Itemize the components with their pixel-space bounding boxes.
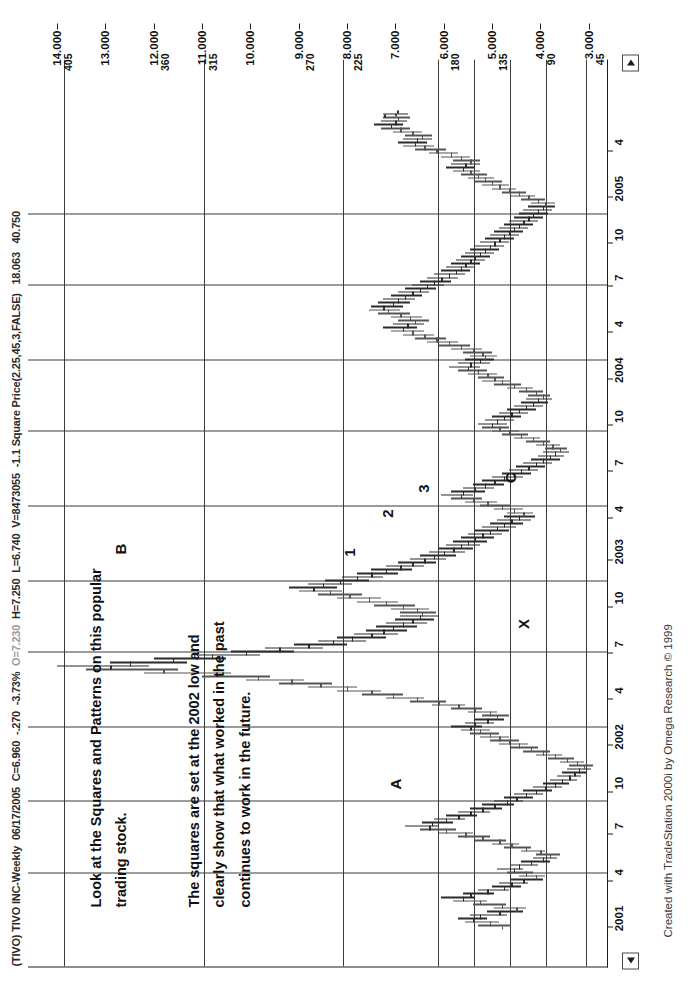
ohlc-bar [265,647,323,649]
ohlc-bar [494,800,523,802]
square-vertical-line-5 [28,505,607,506]
ohlc-open-tick [504,887,505,890]
ohlc-open-tick [461,157,462,160]
ohlc-open-tick [461,267,462,270]
ohlc-bar [398,319,429,321]
ohlc-open-tick [412,620,413,623]
ohlc-open-tick [461,495,462,498]
ohlc-open-tick [388,310,389,313]
ohlc-open-tick [422,613,423,616]
ohlc-open-tick [403,606,404,609]
ohlc-open-tick [521,435,522,438]
ohlc-open-tick [391,125,392,128]
ohlc-bar [439,344,470,346]
ohlc-open-tick [412,292,413,295]
ohlc-open-tick [333,641,334,644]
ohlc-open-tick [446,830,447,833]
ohlc-bar [405,825,439,827]
point-label-2: 2 [378,509,395,517]
ohlc-bar [386,622,427,624]
square-axis-label: 45 [594,53,606,65]
ohlc-bar [374,123,403,125]
ohlc-bar [494,508,523,510]
ohlc-bar [536,444,560,446]
ohlc-bar [482,803,513,805]
ohlc-open-tick [502,506,503,509]
ohlc-open-tick [434,556,435,559]
ohlc-open-tick [400,566,401,569]
ohlc-bar [434,818,465,820]
ohlc-open-tick [383,307,384,310]
ohlc-open-tick [465,164,466,167]
scroll-right-button[interactable] [622,54,639,71]
ohlc-bar [468,711,497,713]
ohlc-open-tick [371,691,372,694]
ohlc-open-tick [555,784,556,787]
ohlc-bar [386,697,425,699]
date-axis-label: 2001 [613,905,625,931]
ohlc-bar [465,501,496,503]
ohlc-open-tick [478,175,479,178]
ohlc-open-tick [412,132,413,135]
ohlc-bar [458,362,489,364]
ohlc-open-tick [526,873,527,876]
ohlc-bar [362,693,403,695]
ohlc-bar [511,747,538,749]
ohlc-open-tick [584,766,585,769]
title-open: O=7.230 [10,624,22,665]
ohlc-open-tick [347,687,348,690]
price-axis-label: 10.000 [244,30,256,65]
ohlc-open-tick [519,225,520,228]
ohlc-bar [507,512,534,514]
ohlc-open-tick [458,816,459,819]
ohlc-open-tick [475,709,476,712]
date-axis-tick [608,880,613,881]
ohlc-bar [451,490,485,492]
ohlc-open-tick [545,203,546,206]
chevron-right-icon [627,60,635,66]
ohlc-open-tick [436,339,437,342]
price-axis[interactable]: 14.00013.00012.00011.00010.0009.0008.000… [28,23,608,59]
ohlc-bar [318,640,366,642]
date-axis-tick [608,424,613,425]
ohlc-bar [511,878,542,880]
ohlc-bar [337,690,381,692]
ohlc-open-tick [492,424,493,427]
scroll-left-button[interactable] [622,952,639,969]
ohlc-open-tick [494,805,495,808]
ohlc-bar [318,593,362,595]
ohlc-open-tick [279,648,280,651]
ohlc-open-tick [562,780,563,783]
price-axis-tick [395,23,396,29]
ohlc-bar [451,497,482,499]
ohlc-bar [468,177,495,179]
square-vertical-line-6 [28,430,607,431]
ohlc-bar [383,326,417,328]
ohlc-open-tick [415,143,416,146]
ohlc-bar [374,604,415,606]
square-axis-label: 405 [62,53,74,71]
ohlc-open-tick [490,922,491,925]
point-label-A: A [387,778,404,789]
ohlc-bar [376,625,417,627]
ohlc-open-tick [291,680,292,683]
date-axis-label: 2003 [613,539,625,565]
ohlc-bar [482,714,509,716]
ohlc-open-tick [494,378,495,381]
ohlc-open-tick [523,880,524,883]
ohlc-bar [446,814,477,816]
square-horizontal-line-5 [343,59,344,966]
date-axis[interactable]: 2001471020024710200347102004471020054 [608,59,636,967]
ohlc-bar [451,707,482,709]
date-axis-label: 4 [613,869,625,875]
ohlc-open-tick [482,353,483,356]
ohlc-open-tick [523,513,524,516]
ohlc-open-tick [526,794,527,797]
date-axis-label: 4 [613,505,625,511]
price-axis-tick [347,23,348,29]
ohlc-open-tick [569,777,570,780]
date-axis-label: 4 [613,320,625,326]
ohlc-open-tick [439,702,440,705]
ohlc-open-tick [494,242,495,245]
ohlc-bar [398,141,427,143]
